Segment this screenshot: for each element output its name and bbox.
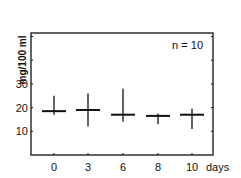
error-bar bbox=[111, 89, 135, 122]
plot-frame bbox=[31, 33, 213, 155]
y-axis-label: mg/100 ml bbox=[17, 35, 28, 84]
x-tick-label: 0 bbox=[51, 161, 57, 173]
x-tick-label: 10 bbox=[186, 161, 198, 173]
y-axis-ticks: 102030 bbox=[16, 37, 213, 138]
error-bar bbox=[146, 114, 170, 125]
error-bar bbox=[76, 93, 100, 126]
error-bar-chart: 102030 036810 mg/100 ml n = 10 days bbox=[0, 0, 241, 178]
x-axis-unit-label: days bbox=[206, 161, 230, 173]
x-tick-label: 3 bbox=[85, 161, 91, 173]
x-axis-ticks: 036810 bbox=[51, 153, 198, 173]
sample-size-annotation: n = 10 bbox=[172, 39, 203, 51]
error-bar bbox=[42, 96, 66, 115]
x-tick-label: 6 bbox=[120, 161, 126, 173]
y-tick-label: 20 bbox=[16, 102, 28, 114]
x-tick-label: 8 bbox=[155, 161, 161, 173]
error-bar bbox=[180, 109, 204, 129]
error-bars bbox=[42, 89, 204, 129]
y-tick-label: 10 bbox=[16, 125, 28, 137]
